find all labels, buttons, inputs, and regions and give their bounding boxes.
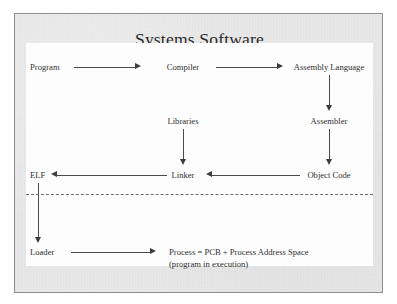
node-program: Program [30,61,60,73]
diagram-card: Systems Software Program Compiler Assemb… [14,13,383,293]
edge-linker-elf-arrowhead [51,171,57,177]
node-process-line1: Process = PCB + Process Address Space [169,246,309,258]
diagram-panel: Program Compiler Assembly Language Libra… [26,43,373,266]
node-linker: Linker [172,169,195,181]
edge-objectcode-linker-arrowhead [206,171,212,177]
node-elf: ELF [30,169,45,181]
edge-assembly-assembler-line [329,75,330,107]
edge-libraries-linker-line [183,129,184,161]
edge-assembly-assembler-arrowhead [326,105,332,111]
edge-loader-process-line [71,252,151,253]
edge-program-compiler-line [74,67,136,68]
edge-objectcode-linker-line [211,175,300,176]
edge-linker-elf-line [56,175,167,176]
compile-runtime-divider [26,194,373,195]
node-process-line2: (program in execution) [169,258,248,270]
edge-assembler-objectcode-arrowhead [326,159,332,165]
node-assembler: Assembler [311,115,348,127]
edge-compiler-assembly-arrowhead [277,63,283,69]
edge-loader-process-arrowhead [150,248,156,254]
edge-elf-loader-line [38,183,39,239]
systems-software-figure: Systems Software Program Compiler Assemb… [0,0,397,304]
edge-libraries-linker-arrowhead [180,159,186,165]
node-libraries: Libraries [167,115,198,127]
edge-program-compiler-arrowhead [135,63,141,69]
edge-compiler-assembly-line [216,67,278,68]
node-compiler: Compiler [167,61,199,73]
node-loader: Loader [30,246,54,258]
edge-elf-loader-arrowhead [35,237,41,243]
edge-assembler-objectcode-line [329,129,330,161]
node-object-code: Object Code [307,169,350,181]
node-assembly-language: Assembly Language [294,61,364,73]
